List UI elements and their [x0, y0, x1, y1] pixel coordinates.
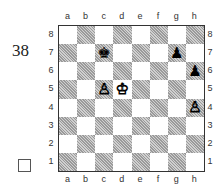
file-label-a: a [59, 174, 77, 184]
square-f6[interactable] [150, 62, 168, 80]
square-a4[interactable] [59, 99, 77, 117]
square-b4[interactable] [77, 99, 95, 117]
rank-label-3: 3 [206, 120, 214, 130]
square-g5[interactable] [168, 80, 186, 98]
square-h4[interactable]: ♙ [186, 99, 204, 117]
file-label-b: b [77, 174, 95, 184]
square-d2[interactable] [113, 135, 131, 153]
square-d4[interactable] [113, 99, 131, 117]
square-f5[interactable] [150, 80, 168, 98]
black-pawn-icon[interactable]: ♟ [188, 64, 201, 79]
file-label-f: f [149, 11, 167, 21]
square-d7[interactable] [113, 44, 131, 62]
square-g7[interactable]: ♟ [168, 44, 186, 62]
square-f8[interactable] [150, 26, 168, 44]
square-e4[interactable] [132, 99, 150, 117]
square-e8[interactable] [132, 26, 150, 44]
rank-label-3: 3 [47, 120, 55, 130]
square-a2[interactable] [59, 135, 77, 153]
square-a5[interactable] [59, 80, 77, 98]
file-label-h: h [185, 11, 203, 21]
square-g1[interactable] [168, 153, 186, 171]
square-e2[interactable] [132, 135, 150, 153]
square-c3[interactable] [95, 117, 113, 135]
rank-label-8: 8 [206, 29, 214, 39]
rank-label-2: 2 [206, 138, 214, 148]
square-e6[interactable] [132, 62, 150, 80]
square-g2[interactable] [168, 135, 186, 153]
black-pawn-icon[interactable]: ♟ [170, 46, 183, 61]
rank-label-2: 2 [47, 138, 55, 148]
square-b3[interactable] [77, 117, 95, 135]
black-king-icon[interactable]: ♚ [98, 46, 111, 61]
chess-board: ♚♟♟♙♔♙ [58, 25, 205, 172]
square-a7[interactable] [59, 44, 77, 62]
file-label-g: g [167, 11, 185, 21]
file-label-d: d [113, 11, 131, 21]
rank-label-1: 1 [47, 156, 55, 166]
square-c1[interactable] [95, 153, 113, 171]
square-g4[interactable] [168, 99, 186, 117]
square-g3[interactable] [168, 117, 186, 135]
square-d8[interactable] [113, 26, 131, 44]
square-e5[interactable] [132, 80, 150, 98]
rank-label-7: 7 [206, 47, 214, 57]
file-label-a: a [59, 11, 77, 21]
white-pawn-icon[interactable]: ♙ [98, 82, 111, 97]
square-d1[interactable] [113, 153, 131, 171]
square-h3[interactable] [186, 117, 204, 135]
file-label-f: f [149, 174, 167, 184]
rank-label-4: 4 [47, 102, 55, 112]
file-label-b: b [77, 11, 95, 21]
white-king-icon[interactable]: ♔ [116, 82, 129, 97]
square-f4[interactable] [150, 99, 168, 117]
square-h6[interactable]: ♟ [186, 62, 204, 80]
square-f3[interactable] [150, 117, 168, 135]
square-f2[interactable] [150, 135, 168, 153]
square-b1[interactable] [77, 153, 95, 171]
file-label-h: h [185, 174, 203, 184]
square-c8[interactable] [95, 26, 113, 44]
square-f7[interactable] [150, 44, 168, 62]
square-b6[interactable] [77, 62, 95, 80]
square-h1[interactable] [186, 153, 204, 171]
square-e3[interactable] [132, 117, 150, 135]
file-label-e: e [131, 11, 149, 21]
square-e1[interactable] [132, 153, 150, 171]
square-g8[interactable] [168, 26, 186, 44]
square-d6[interactable] [113, 62, 131, 80]
square-a1[interactable] [59, 153, 77, 171]
square-c2[interactable] [95, 135, 113, 153]
rank-label-5: 5 [47, 83, 55, 93]
square-b7[interactable] [77, 44, 95, 62]
square-c5[interactable]: ♙ [95, 80, 113, 98]
rank-label-4: 4 [206, 102, 214, 112]
square-d5[interactable]: ♔ [113, 80, 131, 98]
square-h2[interactable] [186, 135, 204, 153]
white-pawn-icon[interactable]: ♙ [188, 100, 201, 115]
solution-checkbox[interactable] [18, 159, 31, 172]
square-h8[interactable] [186, 26, 204, 44]
square-a8[interactable] [59, 26, 77, 44]
file-label-d: d [113, 174, 131, 184]
square-h7[interactable] [186, 44, 204, 62]
square-h5[interactable] [186, 80, 204, 98]
square-b5[interactable] [77, 80, 95, 98]
square-a3[interactable] [59, 117, 77, 135]
square-c7[interactable]: ♚ [95, 44, 113, 62]
rank-label-1: 1 [206, 156, 214, 166]
file-label-c: c [95, 174, 113, 184]
file-label-c: c [95, 11, 113, 21]
square-d3[interactable] [113, 117, 131, 135]
rank-label-6: 6 [47, 65, 55, 75]
square-c6[interactable] [95, 62, 113, 80]
square-e7[interactable] [132, 44, 150, 62]
square-b2[interactable] [77, 135, 95, 153]
file-label-g: g [167, 174, 185, 184]
square-b8[interactable] [77, 26, 95, 44]
square-g6[interactable] [168, 62, 186, 80]
square-a6[interactable] [59, 62, 77, 80]
square-c4[interactable] [95, 99, 113, 117]
rank-label-6: 6 [206, 65, 214, 75]
square-f1[interactable] [150, 153, 168, 171]
